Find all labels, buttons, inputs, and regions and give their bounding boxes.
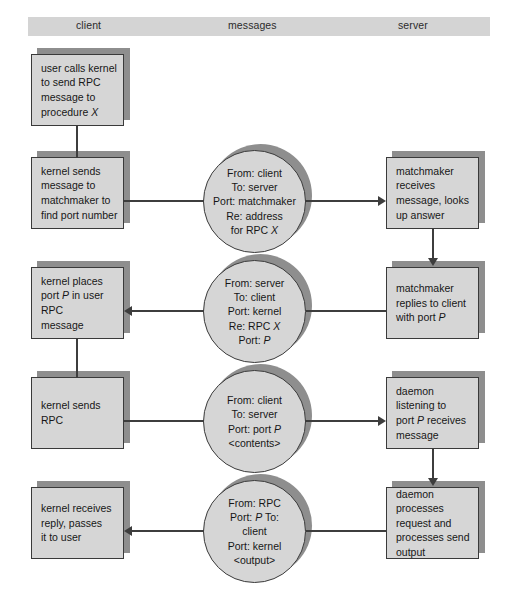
connector-client4-to-message3	[124, 420, 204, 422]
client-step-5-label: kernel receivesreply, passesit to user	[41, 501, 112, 545]
client-step-1-box: user calls kernelto send RPCmessage topr…	[31, 54, 124, 126]
server-step-1-box: matchmakerreceivesmessage, looksup answe…	[386, 157, 479, 229]
client-step-4-box: kernel sendsRPC	[31, 377, 124, 449]
node-face: kernel sendsmessage tomatchmaker tofind …	[31, 157, 124, 229]
server-step-2-label: matchmakerreplies to clientwith port P	[396, 281, 466, 325]
client-step-4-label: kernel sendsRPC	[41, 398, 101, 427]
connector-message4-to-client5	[131, 530, 204, 532]
arrowhead-into-server-step-3	[378, 416, 386, 426]
server-step-4-label: daemonprocessesrequest andprocesses send…	[396, 487, 470, 560]
node-face: daemonprocessesrequest andprocesses send…	[386, 487, 479, 559]
column-header-messages: messages	[228, 19, 277, 31]
message-3-label: From: clientTo: serverPort: port P<conte…	[227, 393, 282, 450]
node-face: matchmakerreplies to clientwith port P	[386, 267, 479, 339]
rpc-flow-diagram: client messages server user calls kernel…	[0, 0, 513, 604]
connector-client1-to-client2	[76, 126, 78, 157]
client-step-5-box: kernel receivesreply, passesit to user	[31, 487, 124, 559]
connector-message2-to-client3	[131, 310, 204, 312]
message-3-circle: From: clientTo: serverPort: port P<conte…	[203, 370, 306, 473]
arrowhead-into-client-step-3	[124, 306, 132, 316]
arrowhead-into-client-step-5	[124, 526, 132, 536]
arrowhead-into-server-step-4	[428, 478, 438, 486]
connector-server1-to-server2	[432, 229, 434, 259]
client-step-3-box: kernel placesport P in userRPCmessage	[31, 267, 124, 339]
server-step-4-box: daemonprocessesrequest andprocesses send…	[386, 487, 479, 559]
node-face: daemonlistening toport P receivesmessage	[386, 377, 479, 449]
message-4-circle: From: RPCPort: P To:clientPort: kernel<o…	[203, 480, 306, 583]
connector-client3-to-client4	[76, 339, 78, 377]
message-1-circle: From: clientTo: serverPort: matchmakerRe…	[203, 150, 306, 253]
message-4-label: From: RPCPort: P To:clientPort: kernel<o…	[228, 496, 282, 567]
node-face: kernel receivesreply, passesit to user	[31, 487, 124, 559]
connector-client2-to-message1	[124, 200, 204, 202]
column-header-client: client	[76, 19, 101, 31]
message-2-label: From: serverTo: clientPort: kernelRe: RP…	[225, 276, 285, 347]
connector-server3-to-server4	[432, 449, 434, 479]
node-face: From: serverTo: clientPort: kernelRe: RP…	[203, 260, 306, 363]
server-step-3-box: daemonlistening toport P receivesmessage	[386, 377, 479, 449]
client-step-2-box: kernel sendsmessage tomatchmaker tofind …	[31, 157, 124, 229]
server-step-1-label: matchmakerreceivesmessage, looksup answe…	[396, 164, 469, 222]
node-face: matchmakerreceivesmessage, looksup answe…	[386, 157, 479, 229]
node-face: kernel sendsRPC	[31, 377, 124, 449]
server-step-3-label: daemonlistening toport P receivesmessage	[396, 384, 466, 442]
node-face: From: clientTo: serverPort: matchmakerRe…	[203, 150, 306, 253]
server-step-2-box: matchmakerreplies to clientwith port P	[386, 267, 479, 339]
connector-message3-to-server3	[305, 420, 379, 422]
connector-message1-to-server1	[305, 200, 379, 202]
connector-server2-to-message2	[306, 310, 387, 312]
node-face: kernel placesport P in userRPCmessage	[31, 267, 124, 339]
connector-server4-to-message4	[306, 530, 387, 532]
client-step-3-label: kernel placesport P in userRPCmessage	[41, 274, 103, 332]
arrowhead-into-server-step-2	[428, 258, 438, 266]
client-step-1-label: user calls kernelto send RPCmessage topr…	[41, 61, 117, 119]
node-face: From: RPCPort: P To:clientPort: kernel<o…	[203, 480, 306, 583]
node-face: user calls kernelto send RPCmessage topr…	[31, 54, 124, 126]
message-1-label: From: clientTo: serverPort: matchmakerRe…	[213, 166, 296, 237]
arrowhead-into-server-step-1	[378, 196, 386, 206]
client-step-2-label: kernel sendsmessage tomatchmaker tofind …	[41, 164, 117, 222]
node-face: From: clientTo: serverPort: port P<conte…	[203, 370, 306, 473]
column-header-server: server	[398, 19, 428, 31]
message-2-circle: From: serverTo: clientPort: kernelRe: RP…	[203, 260, 306, 363]
